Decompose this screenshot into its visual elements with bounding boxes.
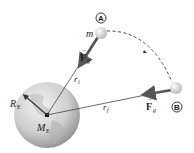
initial-distance-label: r i [74, 74, 80, 85]
particle-a [95, 27, 107, 39]
svg-text:i: i [78, 79, 80, 85]
svg-text:R: R [9, 98, 16, 109]
svg-text:B: B [174, 103, 180, 112]
svg-text:g: g [87, 58, 90, 64]
force-label-b: → F g [146, 96, 156, 113]
svg-text:E: E [17, 104, 21, 110]
point-b-label: B [172, 102, 182, 112]
point-a-label: A [96, 13, 106, 23]
svg-text:F: F [146, 101, 152, 112]
gravity-force-arrow-b [148, 90, 172, 94]
svg-text:F: F [80, 52, 86, 63]
trajectory-direction-arrow-icon [143, 50, 147, 53]
final-distance-label: r f [103, 102, 110, 113]
svg-text:E: E [46, 128, 50, 134]
svg-text:A: A [98, 14, 104, 23]
svg-text:f: f [107, 107, 110, 113]
particle-b [170, 82, 182, 94]
svg-text:g: g [153, 107, 156, 113]
svg-text:M: M [36, 122, 46, 133]
trajectory-path [107, 31, 172, 82]
diagram-canvas: A B m → F g → F g r i r f R E M E [0, 0, 194, 153]
mass-label: m [86, 28, 93, 39]
